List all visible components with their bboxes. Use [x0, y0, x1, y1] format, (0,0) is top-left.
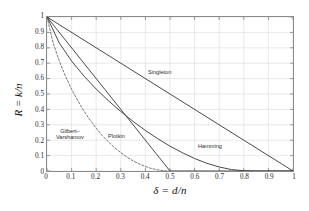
- x-axis-label: δ = d/n: [46, 184, 294, 196]
- singleton-curve: [47, 17, 293, 171]
- singleton-curve-label: Singleton: [148, 69, 171, 75]
- x-tick-label: 0.2: [91, 173, 100, 181]
- y-tick-label: 0.5: [30, 90, 44, 98]
- x-tick-label: 0.5: [166, 173, 175, 181]
- plotkin-curve-label: Plotkin: [108, 133, 125, 139]
- y-axis-tick-labels: 00.10.20.30.40.50.60.70.80.91: [28, 0, 44, 211]
- gv-label-line-2: Varshamov: [56, 134, 84, 140]
- y-tick-label: 0.9: [30, 28, 44, 36]
- y-tick-label: 1: [30, 12, 44, 20]
- x-tick-label: 0.3: [116, 173, 125, 181]
- x-tick-label: 0.8: [240, 173, 249, 181]
- gilbert-varshamov-curve-label: Gilbert– Varshamov: [56, 128, 84, 141]
- y-tick-label: 0.7: [30, 59, 44, 67]
- y-tick-label: 0.1: [30, 152, 44, 160]
- x-axis-label-text: δ = d/n: [153, 184, 187, 196]
- y-tick-label: 0.8: [30, 43, 44, 51]
- x-tick-label: 1: [292, 173, 296, 181]
- y-tick-label: 0.6: [30, 74, 44, 82]
- plot-area: [46, 16, 294, 172]
- curve-lines: [47, 17, 293, 171]
- y-axis-label: R = k/n: [12, 30, 24, 170]
- x-tick-label: 0.6: [190, 173, 199, 181]
- y-axis-label-text: R = k/n: [12, 83, 24, 116]
- chart-figure: 00.10.20.30.40.50.60.70.80.91 δ = d/n R …: [0, 0, 309, 211]
- gv-label-line-1: Gilbert–: [60, 128, 80, 134]
- hamming-curve-label: Hamming: [198, 143, 222, 149]
- x-tick-label: 0.7: [215, 173, 224, 181]
- x-tick-label: 0.4: [141, 173, 150, 181]
- y-tick-label: 0.3: [30, 121, 44, 129]
- x-tick-label: 0: [44, 173, 48, 181]
- y-tick-label: 0.2: [30, 137, 44, 145]
- y-tick-label: 0.4: [30, 106, 44, 114]
- x-tick-label: 0.9: [265, 173, 274, 181]
- x-tick-label: 0.1: [66, 173, 75, 181]
- y-tick-label: 0: [30, 168, 44, 176]
